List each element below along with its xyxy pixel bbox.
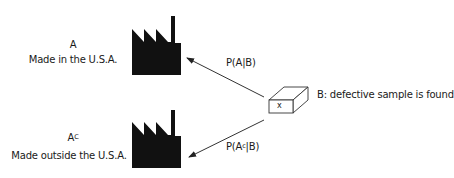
event-a-complement-symbol: AC: [23, 132, 123, 144]
event-a-label: Made in the U.S.A.: [13, 54, 133, 66]
box-mark: x: [277, 100, 282, 112]
event-b-label: B: defective sample is found: [317, 89, 454, 101]
prob-superscript: c: [242, 142, 245, 150]
prob-suffix: |B): [242, 57, 256, 68]
factory-icon: [132, 16, 181, 75]
box-icon: [269, 87, 308, 113]
factory-icon: [132, 110, 181, 168]
prob-a-given-b: P(A|B): [226, 57, 256, 69]
symbol-superscript: C: [74, 133, 78, 141]
prob-prefix: P(A: [226, 141, 242, 152]
prob-a-complement-given-b: P(Ac|B): [226, 141, 259, 153]
event-a-symbol: A: [23, 39, 123, 51]
prob-prefix: P(A: [226, 57, 242, 68]
event-a-complement-label: Made outside the U.S.A.: [4, 150, 134, 162]
prob-suffix: |B): [246, 141, 260, 152]
